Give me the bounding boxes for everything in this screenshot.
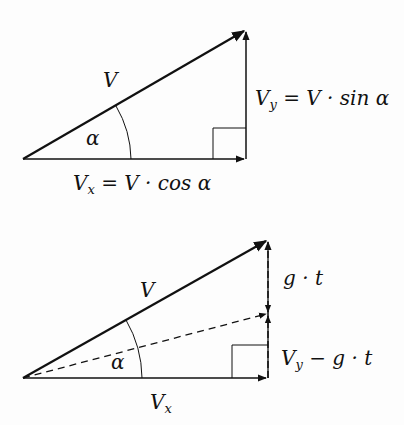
label-vx-1: Vx = V · cos α [73,173,211,196]
right-angle-marker [232,345,268,378]
label-v-2: V [140,280,154,300]
label-vx-2: Vx [150,392,172,415]
label-alpha-1: α [86,128,100,148]
vy-formula: = V · sin α [277,86,389,110]
label-alpha-2: α [111,352,125,372]
right-angle-marker [213,128,246,159]
vy-minus-gt-formula: − g · t [303,346,372,370]
diagram-1 [23,31,246,159]
vx-subscript: x [87,182,94,197]
angle-arc [116,106,131,159]
vector-v [23,241,266,378]
vx-symbol: V [150,390,164,414]
vector-v [23,31,244,159]
diagram-2 [23,241,268,378]
vector-resultant-dashed [23,314,266,378]
label-vy-minus-gt: Vy − g · t [281,348,372,371]
label-v-1: V [103,70,117,90]
vx-formula: = V · cos α [95,171,211,195]
vy-subscript: y [269,97,276,112]
label-gt: g · t [283,268,323,288]
vy-subscript: y [295,357,302,372]
vy-symbol: V [255,86,269,110]
vy-symbol: V [281,346,295,370]
label-vy-1: Vy = V · sin α [255,88,389,111]
vx-subscript: x [164,401,171,416]
vx-symbol: V [73,171,87,195]
